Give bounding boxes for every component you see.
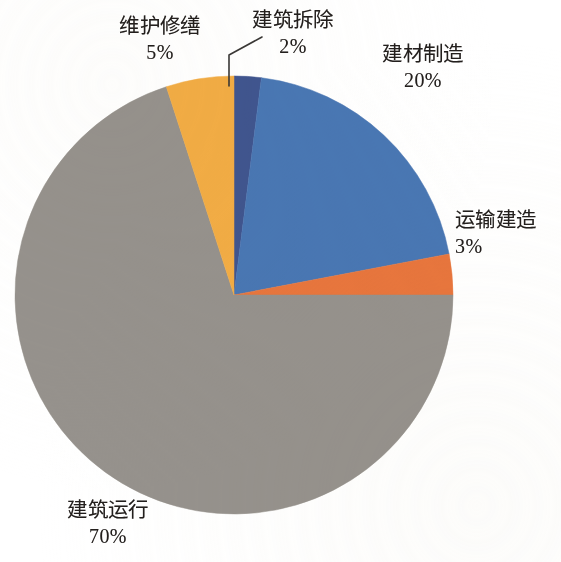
slice-label-maintenance-name: 维护修缮	[95, 14, 225, 40]
slice-label-operation: 建筑运行 70%	[38, 498, 178, 549]
slice-label-materials-value: 20%	[358, 68, 488, 93]
slice-label-demolition: 建筑拆除 2%	[228, 8, 358, 59]
slice-label-transport-value: 3%	[455, 234, 561, 259]
slice-label-maintenance-value: 5%	[95, 40, 225, 65]
slice-label-transport-name: 运输建造	[455, 208, 561, 234]
slice-label-operation-value: 70%	[38, 524, 178, 549]
slice-label-demolition-value: 2%	[228, 34, 358, 59]
pie-chart-figure: 维护修缮 5% 建筑拆除 2% 建材制造 20% 运输建造 3% 建筑运行 70…	[0, 0, 561, 562]
slice-label-operation-name: 建筑运行	[38, 498, 178, 524]
pie-slice-group	[15, 76, 453, 514]
slice-label-transport: 运输建造 3%	[455, 208, 561, 259]
slice-label-maintenance: 维护修缮 5%	[95, 14, 225, 65]
slice-label-materials-name: 建材制造	[358, 42, 488, 68]
slice-label-demolition-name: 建筑拆除	[228, 8, 358, 34]
slice-label-materials: 建材制造 20%	[358, 42, 488, 93]
